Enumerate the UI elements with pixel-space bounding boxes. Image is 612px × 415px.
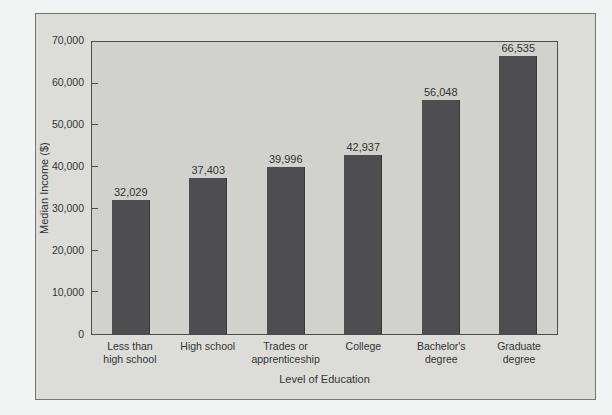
x-category-label: College	[324, 340, 402, 366]
x-category-label: High school	[169, 340, 247, 366]
plot-area: 32,02937,40339,99642,93756,04866,535	[91, 41, 558, 335]
bar-value-label: 56,048	[424, 86, 458, 98]
page-background: { "chart_data": { "type": "bar", "xlabel…	[0, 0, 612, 415]
y-tick-mark	[92, 166, 98, 167]
x-category-label: Trades or apprenticeship	[247, 340, 325, 366]
bar-value-label: 66,535	[501, 42, 535, 54]
y-tick-label: 60,000	[36, 76, 84, 89]
bars-container: 32,02937,40339,99642,93756,04866,535	[92, 42, 557, 334]
y-tick-mark	[92, 208, 98, 209]
bar	[112, 200, 150, 334]
bar-value-label: 32,029	[114, 186, 148, 198]
y-tick-mark	[92, 291, 98, 292]
bar-group: 37,403	[170, 42, 248, 334]
bar	[499, 56, 537, 334]
bar-value-label: 42,937	[346, 141, 380, 153]
y-tick-label: 0	[36, 328, 84, 341]
bar	[422, 100, 460, 334]
y-tick-label: 30,000	[36, 202, 84, 215]
y-tick-mark	[92, 124, 98, 125]
bar-group: 39,996	[247, 42, 325, 334]
bar	[189, 178, 227, 334]
x-category-label: Bachelor's degree	[402, 340, 480, 366]
y-tick-label: 50,000	[36, 118, 84, 131]
bar-group: 42,937	[325, 42, 403, 334]
x-axis-category-labels: Less than high schoolHigh schoolTrades o…	[91, 340, 558, 366]
bar-group: 56,048	[402, 42, 480, 334]
y-tick-label: 40,000	[36, 160, 84, 173]
bar-group: 66,535	[480, 42, 558, 334]
bar	[267, 167, 305, 334]
x-category-label: Less than high school	[91, 340, 169, 366]
bar	[344, 155, 382, 334]
x-axis-title: Level of Education	[91, 373, 558, 385]
y-tick-label: 20,000	[36, 244, 84, 257]
bar-group: 32,029	[92, 42, 170, 334]
y-tick-mark	[92, 83, 98, 84]
y-tick-label: 10,000	[36, 286, 84, 299]
x-category-label: Graduate degree	[480, 340, 558, 366]
y-tick-label: 70,000	[36, 34, 84, 47]
chart-card: Median Income ($) 010,00020,00030,00040,…	[35, 13, 596, 400]
bar-value-label: 37,403	[191, 164, 225, 176]
bar-value-label: 39,996	[269, 153, 303, 165]
y-tick-mark	[92, 250, 98, 251]
